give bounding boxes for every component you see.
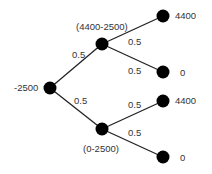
label-leaf4: 0 [180, 152, 185, 163]
label-lower: (0-2500) [83, 143, 119, 154]
edge-probabilities: 0.5 0.5 0.5 0.5 0.5 0.5 [72, 36, 141, 138]
node-leaf1 [157, 10, 170, 23]
label-leaf3: 4400 [175, 95, 196, 106]
node-leaf2 [157, 66, 170, 79]
node-root [44, 82, 57, 95]
label-leaf1: 4400 [175, 10, 196, 21]
node-upper [96, 38, 109, 51]
prob-upper-leaf2: 0.5 [128, 65, 141, 76]
node-lower [96, 123, 109, 136]
label-upper: (4400-2500) [76, 21, 128, 32]
prob-root-upper: 0.5 [72, 49, 85, 60]
prob-root-lower: 0.5 [74, 95, 87, 106]
prob-lower-leaf3: 0.5 [128, 99, 141, 110]
prob-lower-leaf4: 0.5 [128, 127, 141, 138]
label-root: -2500 [14, 82, 38, 93]
nodes [44, 10, 170, 164]
node-leaf3 [157, 95, 170, 108]
label-leaf2: 0 [180, 67, 185, 78]
node-labels: -2500 (4400-2500) (0-2500) 4400 0 4400 0 [14, 10, 196, 163]
node-leaf4 [157, 151, 170, 164]
prob-upper-leaf1: 0.5 [128, 36, 141, 47]
probability-tree: -2500 (4400-2500) (0-2500) 4400 0 4400 0… [0, 0, 212, 174]
edges [50, 16, 163, 157]
